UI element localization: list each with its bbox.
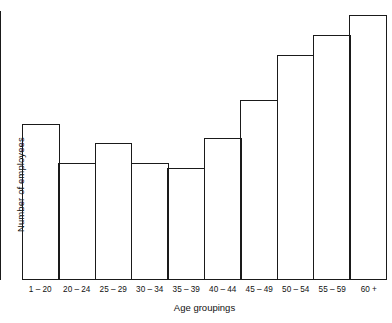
bar [313,35,351,279]
x-tick-label: 35 – 39 [168,283,205,297]
y-axis-line [0,11,1,280]
x-tick-label: 20 – 24 [59,283,96,297]
x-axis-title: Age groupings [22,302,387,313]
bar [131,163,169,279]
x-tick-label: 50 – 54 [278,283,315,297]
bar [240,100,278,279]
x-axis-tick-labels: 1 – 2020 – 2425 – 2930 – 3435 – 3940 – 4… [22,283,387,297]
x-tick-label: 25 – 29 [95,283,132,297]
x-tick-label: 40 – 44 [205,283,242,297]
bar [277,55,315,279]
x-tick-label: 60 + [351,283,388,297]
bar [349,15,387,279]
x-tick-label: 55 – 59 [314,283,351,297]
x-tick-label: 30 – 34 [132,283,169,297]
bar [58,163,96,279]
bar-series [22,11,387,279]
bar [22,124,60,279]
histogram-figure: Number of employees 1 – 2020 – 2425 – 29… [0,0,392,323]
bar [95,143,133,279]
bar [167,168,205,279]
x-axis-line [22,279,387,280]
x-tick-label: 45 – 49 [241,283,278,297]
bar [204,138,242,279]
x-tick-label: 1 – 20 [22,283,59,297]
